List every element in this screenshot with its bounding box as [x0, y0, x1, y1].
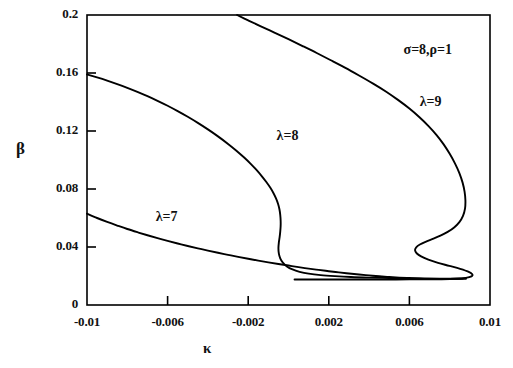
- curve-series-1: [87, 74, 466, 278]
- x-axis-title: κ: [203, 340, 211, 357]
- curve-label-lambda-8: λ=8: [277, 128, 299, 144]
- tick-marks: [87, 73, 409, 305]
- x-tick-label: -0.01: [52, 314, 122, 330]
- curve-label-lambda-9: λ=9: [420, 94, 442, 110]
- axes-frame: [87, 15, 490, 305]
- plot-border: [87, 15, 490, 305]
- y-tick-label: 0.2: [22, 6, 78, 22]
- x-tick-label: -0.002: [213, 314, 283, 330]
- x-tick-label: -0.006: [133, 314, 203, 330]
- curve-series-0: [87, 214, 466, 279]
- curve-label-lambda-7: λ=7: [156, 209, 178, 225]
- bifurcation-diagram-figure: 00.040.080.120.160.2 -0.01-0.006-0.0020.…: [0, 0, 513, 368]
- y-tick-label: 0.12: [22, 122, 78, 138]
- y-tick-label: 0.04: [22, 238, 78, 254]
- y-axis-title: β: [16, 139, 25, 159]
- x-tick-label: 0.01: [455, 314, 513, 330]
- parameters: σ=8,ρ=1: [404, 42, 453, 58]
- x-tick-label: 0.006: [374, 314, 444, 330]
- y-tick-label: 0.16: [22, 64, 78, 80]
- y-tick-label: 0.08: [22, 180, 78, 196]
- y-tick-label: 0: [22, 296, 78, 312]
- x-tick-label: 0.002: [294, 314, 364, 330]
